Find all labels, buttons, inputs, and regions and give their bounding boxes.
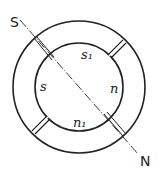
gap-lower-left (32, 116, 50, 134)
label-N: N (140, 153, 150, 169)
label-s: s (40, 79, 47, 94)
pole-axis-line (20, 20, 138, 154)
label-n: n (110, 81, 118, 96)
label-s1: s₁ (81, 47, 93, 62)
label-S: S (10, 14, 19, 30)
label-n1: n₁ (73, 115, 87, 130)
gap-upper-right (108, 40, 126, 58)
ring-magnet-diagram: S N s₁ s n n₁ (0, 0, 158, 173)
